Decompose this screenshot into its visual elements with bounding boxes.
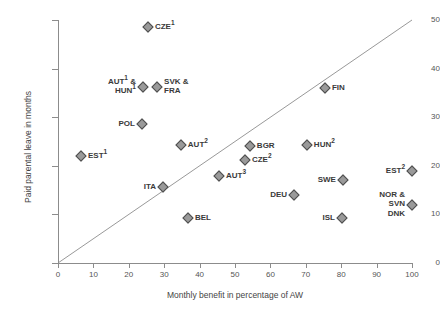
y-axis-title: Paid parental leave in months (23, 67, 33, 227)
x-tick-mark (58, 263, 59, 268)
point-label: POL (118, 119, 134, 129)
point-label: FIN (332, 83, 345, 93)
x-axis-title: Monthly benefit in percentage of AW (58, 290, 412, 300)
y-tick-label: 30 (396, 113, 440, 121)
point-label: BEL (195, 213, 211, 223)
x-tick-mark (129, 263, 130, 268)
point-label: AUT3 (226, 171, 246, 181)
x-tick-label: 40 (185, 271, 215, 279)
point-label: ISL (322, 213, 334, 223)
diamond-marker (136, 118, 147, 129)
y-tick-label: 50 (396, 16, 440, 24)
x-tick-mark (200, 263, 201, 268)
diamond-marker (288, 190, 299, 201)
y-tick-mark (52, 69, 58, 70)
y-tick-mark (52, 214, 58, 215)
x-tick-mark (377, 263, 378, 268)
diamond-marker (175, 139, 186, 150)
scatter-chart: 01020304050 0102030405060708090100 CZE1A… (0, 0, 440, 314)
y-tick-mark (52, 20, 58, 21)
x-tick-label: 80 (326, 271, 356, 279)
point-label: EST1 (88, 151, 107, 161)
point-label: CZE1 (155, 22, 175, 32)
x-tick-label: 0 (43, 271, 73, 279)
x-tick-label: 70 (291, 271, 321, 279)
point-label: EST2 (386, 166, 405, 176)
point-label: CZE2 (252, 155, 272, 165)
diamond-marker (301, 139, 312, 150)
x-tick-mark (164, 263, 165, 268)
point-label: AUT1 &HUN1 (108, 77, 136, 96)
x-tick-label: 100 (397, 271, 427, 279)
diamond-marker (75, 150, 86, 161)
point-label: NOR &SVNDNK (379, 190, 405, 219)
x-tick-label: 10 (78, 271, 108, 279)
x-tick-label: 30 (149, 271, 179, 279)
point-label: SWE (318, 175, 336, 185)
diamond-marker (182, 212, 193, 223)
x-tick-label: 90 (362, 271, 392, 279)
y-tick-mark (52, 117, 58, 118)
diamond-marker (142, 22, 153, 33)
y-tick-label: 40 (396, 65, 440, 73)
diamond-marker (151, 81, 162, 92)
diamond-marker (213, 171, 224, 182)
point-label: DEU (270, 190, 287, 200)
y-axis-line (58, 20, 59, 263)
diamond-marker (137, 81, 148, 92)
x-tick-mark (270, 263, 271, 268)
point-label: AUT2 (188, 140, 208, 150)
x-tick-mark (93, 263, 94, 268)
point-label: BGR (257, 141, 275, 151)
diamond-marker (244, 140, 255, 151)
point-label: HUN2 (314, 140, 335, 150)
point-label: ITA (144, 182, 156, 192)
x-tick-label: 50 (220, 271, 250, 279)
diamond-marker (319, 82, 330, 93)
y-tick-label: 0 (396, 259, 440, 267)
x-tick-mark (341, 263, 342, 268)
diagonal-reference-line (58, 20, 412, 263)
x-tick-label: 60 (255, 271, 285, 279)
diamond-marker (337, 175, 348, 186)
diamond-marker (336, 212, 347, 223)
x-tick-mark (306, 263, 307, 268)
x-tick-mark (235, 263, 236, 268)
y-tick-mark (52, 166, 58, 167)
diamond-marker (157, 182, 168, 193)
x-tick-label: 20 (114, 271, 144, 279)
point-label: SVK &FRA (164, 77, 188, 96)
reference-line-layer (0, 0, 440, 314)
diamond-marker (239, 154, 250, 165)
x-tick-mark (412, 263, 413, 268)
diamond-marker (406, 199, 417, 210)
